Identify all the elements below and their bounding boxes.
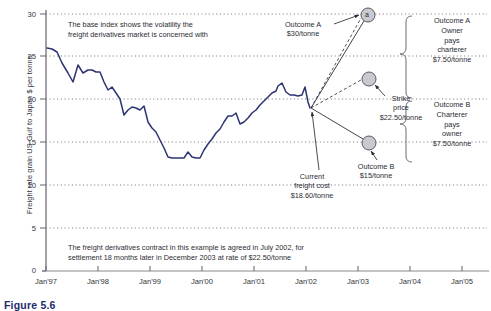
outcome-a-marker-letter: a	[365, 11, 369, 19]
x-tick-marks	[46, 266, 462, 271]
y-tick-label-25: 25	[16, 52, 36, 61]
freight-rate-chart	[0, 0, 491, 311]
x-tick-label-jan99: Jan'99	[127, 277, 173, 286]
lower-brace-line1: Outcome B	[420, 100, 484, 110]
lower-brace-line4: owner	[420, 129, 484, 139]
base-index-note-line2: freight derivatives market is concerned …	[68, 30, 208, 40]
arrow-current-freight-cost	[312, 112, 319, 170]
x-tick-label-jan03: Jan'03	[335, 277, 381, 286]
contract-note-line2: settlement 18 months later in December 2…	[68, 253, 304, 263]
upper-brace-line4: charterer	[420, 45, 484, 55]
outcome-b-callout-line2: $15/tonne	[345, 171, 407, 180]
base-index-note-line1: The base index shows the volatility the	[68, 20, 208, 30]
figure-container: Freight rate grain US Gulf to Japan $ pe…	[0, 0, 491, 311]
upper-brace-line1: Outcome A	[420, 16, 484, 26]
outcome-a-callout: Outcome A $30/tonne	[272, 20, 334, 39]
y-tick-label-0: 0	[16, 266, 36, 275]
y-tick-label-5: 5	[16, 224, 36, 233]
outcome-a-callout-line2: $30/tonne	[272, 29, 334, 38]
upper-brace-line3: pays	[420, 36, 484, 46]
current-freight-cost-line2: freight cost	[281, 181, 343, 190]
outcome-markers	[361, 8, 376, 150]
outcome-lines	[311, 21, 364, 139]
upper-brace-text: Outcome A Owner pays charterer $7.50/ton…	[420, 16, 484, 65]
current-freight-cost-line1: Current	[281, 172, 343, 181]
current-freight-cost-callout: Current freight cost $18.60/tonne	[281, 172, 343, 200]
y-tick-label-10: 10	[16, 181, 36, 190]
upper-brace-line2: Owner	[420, 26, 484, 36]
lower-brace-line3: pays	[420, 120, 484, 130]
braces	[400, 16, 412, 162]
upper-brace	[400, 16, 412, 98]
y-tick-label-20: 20	[16, 95, 36, 104]
base-index-note: The base index shows the volatility the …	[68, 20, 208, 40]
upper-brace-line5: $7.50/tonne	[420, 55, 484, 65]
strike-price-marker	[362, 72, 376, 86]
outcome-b-callout: Outcome B $15/tonne	[345, 162, 407, 181]
outcome-b-callout-line1: Outcome B	[345, 162, 407, 171]
contract-note: The freight derivatives contract in this…	[68, 243, 304, 263]
current-freight-cost-line3: $18.60/tonne	[281, 191, 343, 200]
contract-note-line1: The freight derivatives contract in this…	[68, 243, 304, 253]
y-tick-marks	[40, 14, 46, 271]
x-tick-label-jan05: Jan'05	[439, 277, 485, 286]
lower-brace-text: Outcome B Charterer pays owner $7.50/ton…	[420, 100, 484, 149]
base-index-series	[47, 48, 310, 158]
lower-brace-line5: $7.50/tonne	[420, 139, 484, 149]
outcome-b-marker	[362, 136, 376, 150]
x-tick-label-jan04: Jan'04	[387, 277, 433, 286]
figure-caption: Figure 5.6	[4, 299, 56, 311]
x-tick-label-jan02: Jan'02	[283, 277, 329, 286]
y-tick-label-15: 15	[16, 138, 36, 147]
arrow-outcome-b	[371, 151, 377, 160]
x-tick-label-jan97: Jan'97	[23, 277, 69, 286]
arrow-outcome-a	[334, 15, 359, 24]
lower-brace-line2: Charterer	[420, 110, 484, 120]
x-tick-label-jan98: Jan'98	[75, 277, 121, 286]
line-to-outcome-b	[311, 108, 363, 139]
projection-to-strike	[311, 80, 361, 108]
outcome-a-callout-line1: Outcome A	[272, 20, 334, 29]
y-tick-label-30: 30	[16, 10, 36, 19]
x-tick-label-jan01: Jan'01	[231, 277, 277, 286]
x-tick-label-jan00: Jan'00	[179, 277, 225, 286]
